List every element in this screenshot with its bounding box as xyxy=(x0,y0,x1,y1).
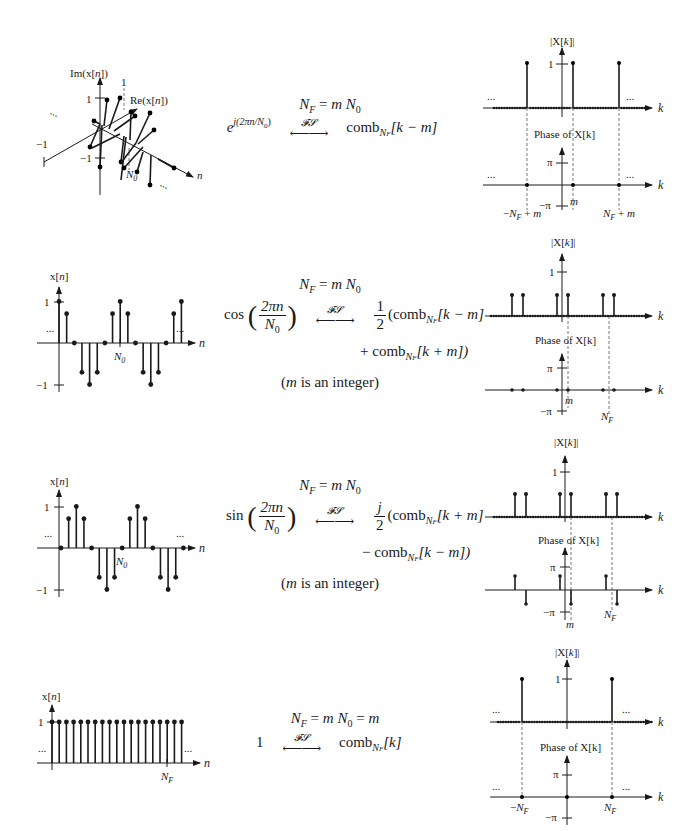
row3-marker-m: m xyxy=(566,618,574,630)
row4-mag-tick: 1 xyxy=(555,673,561,685)
row4-phase-ellipsis-right: ... xyxy=(622,780,631,792)
row1-time-plot: Im(x[n]) Re(x[n]) 1 −1 −1 1 N0 n ... ... xyxy=(36,67,203,195)
row3-relation: NF = m N0 xyxy=(230,477,430,494)
row2-period-label: N0 xyxy=(113,350,125,365)
n-axis-label: n xyxy=(197,169,203,181)
row1-ellipsis-right: ... xyxy=(626,90,635,102)
row4-relation: NF = m N0 = m xyxy=(230,710,440,727)
row1-phase-pi: π xyxy=(547,156,553,168)
row4-ellipsis-right: ... xyxy=(622,703,631,715)
row3-phase-pi: π xyxy=(550,561,556,573)
row3-note: (m is an integer) xyxy=(230,575,430,592)
row3-ellipsis-left: ... xyxy=(44,527,53,539)
row2-phase-neg-pi: −π xyxy=(540,405,552,417)
row4-xn-label: x[n] xyxy=(42,690,60,702)
row3-transform-pair: sin (2πnN0) 𝓕𝓢⟵⟶ j2(combNF[k + m] xyxy=(226,499,484,534)
row2-tick-pos: 1 xyxy=(44,296,50,308)
row4-phase-label: Phase of X[k] xyxy=(540,741,601,753)
im-tick-pos: 1 xyxy=(86,93,92,105)
row2-k-label: k xyxy=(658,309,664,323)
row4-period-label: NF xyxy=(160,770,173,785)
row3-n-label: n xyxy=(199,541,205,555)
row1-marker-pos: NF + m xyxy=(602,207,635,222)
row4-k-label: k xyxy=(658,715,664,729)
row1-relation: NF = m N0 xyxy=(230,96,430,113)
row1-phase-ellipsis-right: ... xyxy=(626,168,635,180)
row4-phase-pi: π xyxy=(553,768,559,780)
row2-n-label: n xyxy=(199,336,205,350)
row2-marker-nf: NF xyxy=(600,410,613,425)
im-tick-neg: −1 xyxy=(80,152,92,164)
n-axis xyxy=(92,124,193,177)
row2-ellipsis-left: ... xyxy=(46,322,55,334)
row3-xn-label: x[n] xyxy=(50,475,68,487)
row1-phase-ellipsis-left: ... xyxy=(487,168,496,180)
row2-tick-neg: −1 xyxy=(36,379,48,391)
row3-k-label: k xyxy=(658,510,664,524)
row2-phase-k: k xyxy=(658,383,664,397)
row1-mag-tick: 1 xyxy=(548,58,554,70)
re-axis-label: Re(x[n]) xyxy=(130,94,168,107)
row4-marker-pos: NF xyxy=(603,801,616,816)
row2-xn-label: x[n] xyxy=(50,270,68,282)
row2-ellipsis-right: ... xyxy=(176,322,185,334)
row4-phase-ellipsis-left: ... xyxy=(492,780,501,792)
row1-k-label: k xyxy=(658,101,664,115)
row4-time-plot xyxy=(37,705,200,770)
row4-ellipsis-left: ... xyxy=(38,742,47,754)
row4-transform-pair: 1 𝓕𝓢⟵⟶ combNF[k] xyxy=(256,733,402,755)
row3-phase-k: k xyxy=(658,583,664,597)
row3-transform-cont: − combNF[k − m]) xyxy=(362,544,470,561)
row1-phase-k: k xyxy=(658,178,664,192)
row1-marker-m: m xyxy=(570,195,578,207)
row3-time-plot xyxy=(37,490,195,597)
row1-marker-neg: −NF + m xyxy=(503,207,541,222)
row4-ellipsis-left: ... xyxy=(492,703,501,715)
fs-arrow: 𝓕𝓢⟵⟶ xyxy=(307,305,363,327)
row2-mag-tick: 1 xyxy=(549,266,555,278)
row4-ellipsis-right: ... xyxy=(184,742,193,754)
row2-transform-pair: cos (2πnN0) 𝓕𝓢⟵⟶ 12(combNF[k − m] xyxy=(224,298,484,333)
ellipsis-right: ... xyxy=(159,177,172,191)
re-tick-pos: 1 xyxy=(121,76,127,88)
row4-n-label: n xyxy=(204,756,210,770)
row3-period-label: N0 xyxy=(115,555,127,570)
row1-mag-label: |X[k]| xyxy=(550,35,575,47)
row1-ellipsis-left: ... xyxy=(487,90,496,102)
row2-mag-label: |X[k]| xyxy=(551,236,576,248)
fs-arrow: 𝓕𝓢⟵⟶ xyxy=(306,506,362,528)
row2-transform-cont: + combNF[k + m]) xyxy=(360,343,468,360)
row3-marker-nf: NF xyxy=(603,608,616,623)
row4-marker-neg: −NF xyxy=(510,801,529,816)
row3-phase-label: Phase of X[k] xyxy=(538,534,599,546)
row4-tick-pos: 1 xyxy=(38,716,44,728)
fs-arrow: 𝓕𝓢⟵⟶ xyxy=(281,118,337,140)
im-axis-label: Im(x[n]) xyxy=(70,67,108,80)
row2-phase-label: Phase of X[k] xyxy=(535,334,596,346)
row2-phase-pi: π xyxy=(547,362,553,374)
row1-transform-pair: ej(2πn/N0) 𝓕𝓢⟵⟶ combNF[k − m] xyxy=(222,118,442,140)
fs-arrow: 𝓕𝓢⟵⟶ xyxy=(273,733,329,755)
row2-marker-m: m xyxy=(565,394,573,406)
row4-phase-neg-pi: −π xyxy=(545,811,557,823)
row2-note: (m is an integer) xyxy=(230,374,430,391)
row3-mag-tick: 1 xyxy=(552,466,558,478)
ellipsis-left: ... xyxy=(49,105,62,119)
re-tick-neg: −1 xyxy=(36,138,48,150)
row3-tick-pos: 1 xyxy=(44,501,50,513)
row2-relation: NF = m N0 xyxy=(230,276,430,293)
row3-tick-neg: −1 xyxy=(36,584,48,596)
row3-phase-neg-pi: −π xyxy=(543,606,555,618)
row4-mag-label: |X[k]| xyxy=(555,646,580,658)
row3-mag-label: |X[k]| xyxy=(554,436,579,448)
row1-phase-label: Phase of X[k] xyxy=(534,128,595,140)
row4-phase-k: k xyxy=(658,790,664,804)
row3-ellipsis-right: ... xyxy=(176,527,185,539)
